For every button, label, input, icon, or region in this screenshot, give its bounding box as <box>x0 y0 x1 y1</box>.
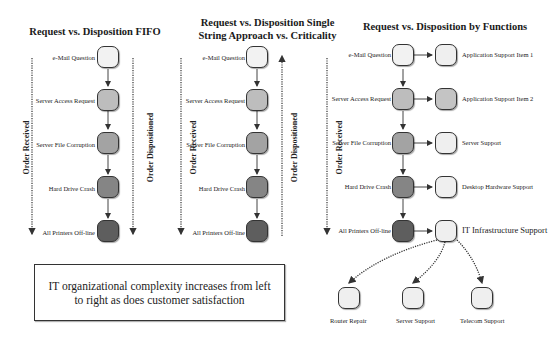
request-box <box>97 176 119 198</box>
request-box <box>97 132 119 154</box>
request-box <box>246 220 268 242</box>
title-line: Request vs. Disposition by Functions <box>363 21 527 32</box>
request-box <box>97 220 119 242</box>
request-label: All Printers Off-line <box>42 229 95 237</box>
request-box <box>392 220 414 242</box>
request-label: Server Access Request <box>186 97 245 105</box>
request-label: Server File Corruption <box>36 141 95 149</box>
request-label: Server Access Request <box>36 97 95 105</box>
request-label: Server File Corruption <box>186 141 245 149</box>
request-label: e-Mail Question <box>349 51 391 59</box>
function-box <box>435 44 457 66</box>
request-label: Server File Corruption <box>332 139 391 147</box>
request-box <box>392 132 414 154</box>
panel-title: Request vs. Disposition by Functions <box>355 20 535 33</box>
title-line: Request vs. Disposition FIFO <box>29 26 160 37</box>
function-label: Desktop Hardware Support <box>462 183 533 191</box>
request-label: All Printers Off-line <box>192 229 245 237</box>
order-dispositioned-label: Order Dispositioned <box>290 108 299 188</box>
request-box <box>246 46 268 68</box>
request-label: e-Mail Question <box>203 54 245 62</box>
sub-function-label: Server Support <box>396 317 435 325</box>
request-box <box>392 176 414 198</box>
sub-function-box <box>338 287 360 309</box>
function-box <box>435 176 457 198</box>
function-label: Application Support Item 1 <box>462 51 533 59</box>
request-label: Hard Drive Crash <box>345 183 391 191</box>
panel-title: Request vs. Disposition Single String Ap… <box>185 16 350 42</box>
order-received-label: Order Received <box>22 113 31 183</box>
title-line: String Approach vs. Criticality <box>185 29 350 42</box>
request-box <box>97 46 119 68</box>
request-label: Hard Drive Crash <box>49 185 95 193</box>
request-box <box>392 88 414 110</box>
function-box <box>435 88 457 110</box>
request-box <box>246 176 268 198</box>
request-box <box>246 89 268 111</box>
sub-function-box <box>471 287 493 309</box>
function-label: Application Support Item 2 <box>462 95 533 103</box>
order-received-label: Order Received <box>335 113 344 183</box>
title-line: Request vs. Disposition Single <box>185 16 350 29</box>
sub-function-label: Telecom Support <box>460 317 505 325</box>
function-label: IT Infrastructure Support <box>462 225 547 235</box>
sub-function-label: Router Repair <box>330 317 367 325</box>
request-box <box>246 132 268 154</box>
function-box <box>435 132 457 154</box>
request-label: Server Access Request <box>332 95 391 103</box>
request-label: All Printers Off-line <box>338 227 391 235</box>
panel-title: Request vs. Disposition FIFO <box>20 25 170 38</box>
sub-function-box <box>402 287 424 309</box>
request-label: e-Mail Question <box>53 54 95 62</box>
request-label: Hard Drive Crash <box>199 185 245 193</box>
request-box <box>392 44 414 66</box>
request-box <box>97 89 119 111</box>
order-dispositioned-label: Order Dispositioned <box>146 108 155 188</box>
summary-text: IT organizational complexity increases f… <box>43 279 276 307</box>
function-label: Server Support <box>462 139 501 147</box>
summary-note: IT organizational complexity increases f… <box>34 264 285 321</box>
function-box <box>435 220 457 242</box>
